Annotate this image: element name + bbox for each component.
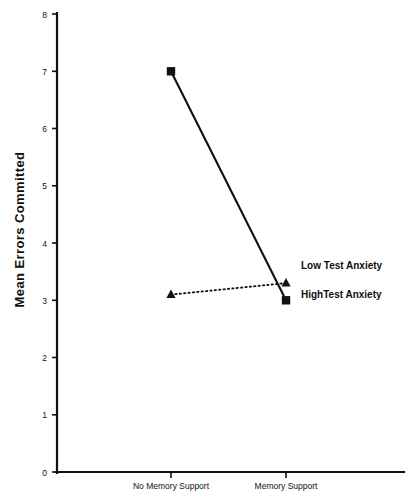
y-tick-label-3: 3	[42, 296, 47, 306]
square-marker-no-memory-support	[167, 67, 175, 75]
chart-container: Mean Errors Committed 8 7 6 5 4 3 2	[0, 0, 414, 498]
x-axis-category-labels: No Memory Support Memory Support	[133, 481, 318, 491]
triangle-marker-no-memory-support	[166, 290, 175, 299]
y-tick-label-6: 6	[42, 124, 47, 134]
legend-entry-low-test-anxiety: Low Test Anxiety	[301, 260, 383, 271]
y-tick-label-7: 7	[42, 67, 47, 77]
y-tick-label-8: 8	[42, 10, 47, 20]
series-high-test-anxiety-line	[171, 283, 286, 295]
legend-entry-high-test-anxiety: HighTest Anxiety	[301, 289, 382, 300]
series-low-test-anxiety-line	[171, 71, 286, 300]
y-tick-label-1: 1	[42, 410, 47, 420]
series-low-test-anxiety	[167, 67, 290, 304]
y-tick-label-2: 2	[42, 353, 47, 363]
chart-plot-svg: 8 7 6 5 4 3 2 1 0 No Memory Support Memo…	[0, 0, 414, 498]
chart-legend: Low Test Anxiety HighTest Anxiety	[301, 260, 383, 300]
square-marker-memory-support	[282, 296, 290, 304]
x-category-label-1: Memory Support	[255, 481, 318, 491]
y-tick-label-5: 5	[42, 181, 47, 191]
y-tick-label-0: 0	[42, 468, 47, 478]
triangle-marker-memory-support	[281, 278, 290, 287]
y-tick-label-4: 4	[42, 239, 47, 249]
series-high-test-anxiety	[166, 278, 290, 298]
x-category-label-0: No Memory Support	[133, 481, 210, 491]
y-axis-tick-labels: 8 7 6 5 4 3 2 1 0	[42, 10, 47, 478]
